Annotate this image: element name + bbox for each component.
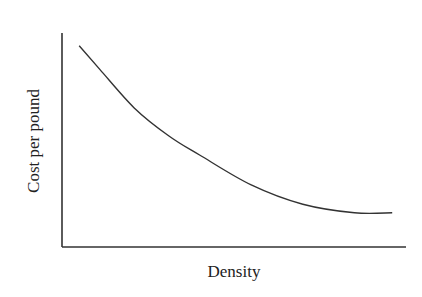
chart: Cost per pound Density [0, 0, 422, 297]
y-axis-label: Cost per pound [24, 89, 43, 193]
x-axis-label: Density [208, 262, 261, 281]
cost-curve [79, 46, 392, 214]
